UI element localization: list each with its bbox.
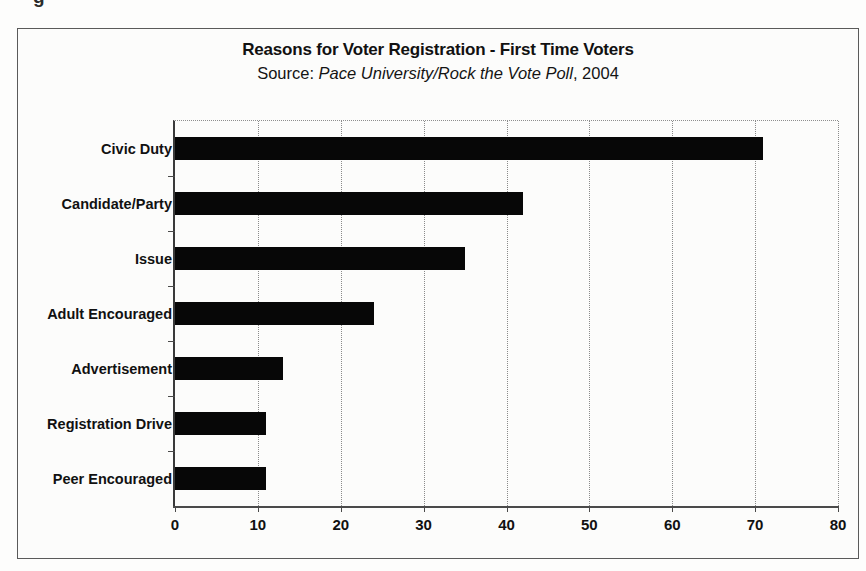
x-axis-line [173, 506, 838, 508]
x-tick-label: 60 [664, 516, 681, 533]
category-label: Registration Drive [47, 416, 172, 432]
x-tick-label: 70 [747, 516, 764, 533]
chart-subtitle-year: , 2004 [573, 64, 619, 82]
category-label: Adult Encouraged [47, 306, 172, 322]
figure-frame: Reasons for Voter Registration - First T… [17, 28, 859, 559]
x-tick-label: 10 [250, 516, 267, 533]
bar [175, 137, 763, 160]
bar [175, 192, 523, 215]
chart-subtitle-source: Pace University/Rock the Vote Poll [319, 64, 573, 82]
gridline-50 [589, 121, 590, 506]
category-label: Peer Encouraged [53, 471, 172, 487]
bar [175, 247, 465, 270]
bar [175, 357, 283, 380]
y-tick [168, 341, 175, 342]
category-label: Advertisement [71, 361, 172, 377]
chart-subtitle-prefix: Source: [257, 64, 318, 82]
y-tick [168, 176, 175, 177]
y-tick [168, 451, 175, 452]
plot-area: 01020304050607080Civic DutyCandidate/Par… [173, 120, 838, 506]
x-tick-label: 50 [581, 516, 598, 533]
plot-inner: 01020304050607080Civic DutyCandidate/Par… [175, 121, 838, 506]
y-tick [168, 286, 175, 287]
gridline-70 [755, 121, 756, 506]
x-tick-label: 40 [498, 516, 515, 533]
gridline-60 [672, 121, 673, 506]
chart-titles: Reasons for Voter Registration - First T… [18, 40, 858, 83]
category-label: Civic Duty [101, 141, 172, 157]
bar [175, 467, 266, 490]
bar [175, 412, 266, 435]
x-tick-80 [838, 506, 839, 512]
y-tick [168, 396, 175, 397]
caption-remnant-glyph: g [33, 0, 45, 6]
gridline-30 [424, 121, 425, 506]
gridline-80 [838, 121, 839, 506]
y-tick [168, 231, 175, 232]
bar [175, 302, 374, 325]
x-tick-label: 0 [171, 516, 179, 533]
category-label: Issue [135, 251, 172, 267]
chart-subtitle: Source: Pace University/Rock the Vote Po… [18, 64, 858, 83]
x-tick-label: 80 [830, 516, 847, 533]
chart-title: Reasons for Voter Registration - First T… [18, 40, 858, 60]
x-tick-label: 30 [415, 516, 432, 533]
x-tick-label: 20 [332, 516, 349, 533]
category-label: Candidate/Party [62, 196, 172, 212]
gridline-40 [507, 121, 508, 506]
